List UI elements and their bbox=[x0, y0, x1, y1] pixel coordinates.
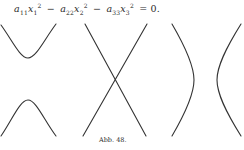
upper-branch bbox=[1, 24, 56, 58]
crossing-lines-panel bbox=[83, 24, 147, 136]
hyperbola-vertical-panel bbox=[1, 24, 56, 136]
figure-caption: Abb. 48. bbox=[99, 136, 127, 144]
lower-branch bbox=[1, 100, 56, 136]
left-branch bbox=[172, 24, 194, 136]
figure bbox=[0, 0, 244, 150]
hyperbola-horizontal-panel bbox=[172, 24, 241, 136]
right-branch bbox=[217, 24, 241, 136]
